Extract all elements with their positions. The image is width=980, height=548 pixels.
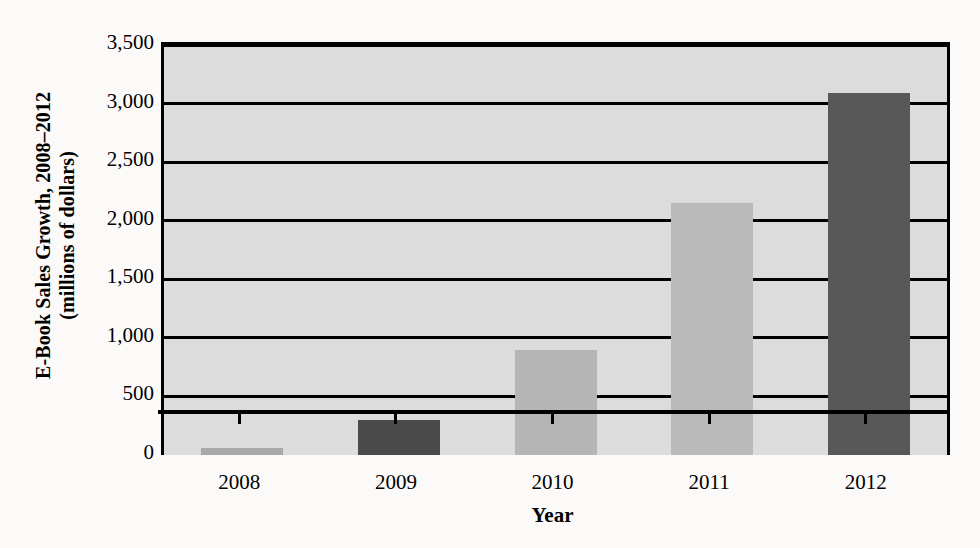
y-axis-tick-label: 1,000	[66, 322, 154, 347]
x-axis-tick-mark	[394, 411, 397, 424]
plot-area	[161, 42, 947, 455]
y-axis-tick-label: 2,000	[66, 205, 154, 230]
x-axis-title-text: Year	[532, 503, 574, 527]
ebook-sales-bar-chart: E-Book Sales Growth, 2008–2012 (millions…	[0, 0, 980, 548]
bar-2009	[358, 420, 440, 455]
x-axis-tick-mark	[864, 411, 867, 424]
x-axis-title: Year	[0, 503, 980, 528]
x-axis-tick-mark	[708, 411, 711, 424]
bar-2008	[201, 448, 283, 455]
y-axis-tick-label: 0	[66, 440, 154, 465]
y-axis-tick-labels: 3,5003,0002,5002,0001,5001,0005000	[62, 0, 154, 548]
y-axis-tick-label: 1,500	[66, 264, 154, 289]
plot-right-border	[947, 42, 950, 455]
y-axis-tick-label: 500	[66, 381, 154, 406]
x-axis-tick-mark	[238, 411, 241, 424]
bar-2011	[671, 203, 753, 455]
x-axis-tick-mark	[551, 411, 554, 424]
y-axis-title-line-1: E-Book Sales Growth, 2008–2012	[33, 91, 55, 378]
bar-2010	[515, 350, 597, 455]
y-axis-tick-label: 3,500	[66, 30, 154, 55]
x-axis-tick-label: 2012	[845, 470, 887, 495]
x-axis-tick-label: 2010	[532, 470, 574, 495]
x-axis-tick-label: 2008	[218, 470, 260, 495]
gridline	[164, 44, 947, 47]
y-axis-tick-label: 2,500	[66, 147, 154, 172]
y-axis-tick-label: 3,000	[66, 88, 154, 113]
bar-2012	[828, 93, 910, 455]
x-axis-tick-label: 2011	[688, 470, 729, 495]
x-axis-tick-label: 2009	[375, 470, 417, 495]
